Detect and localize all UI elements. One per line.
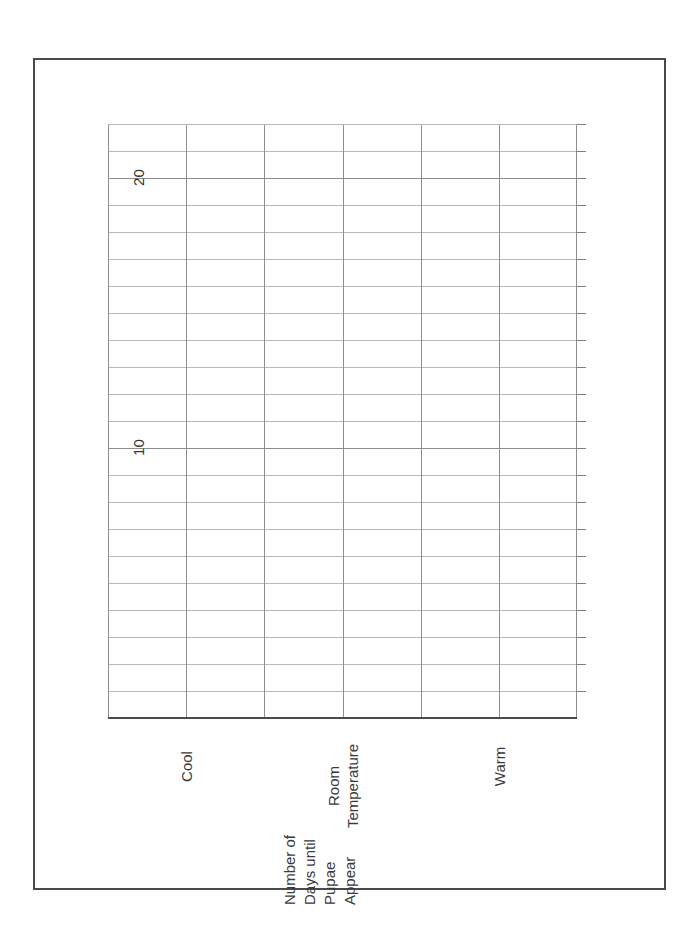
axis-tick <box>577 259 586 260</box>
axis-tick <box>577 583 586 584</box>
category-label-cool: Cool <box>177 707 196 827</box>
axis-tick <box>577 124 586 125</box>
y-tick-label-20: 20 <box>130 169 147 186</box>
axis-tick <box>577 556 586 557</box>
axis-tick <box>577 421 586 422</box>
axis-tick <box>577 610 586 611</box>
axis-tick <box>577 232 586 233</box>
axis-tick <box>577 178 586 179</box>
axis-tick <box>577 502 586 503</box>
chart-plot-area <box>108 125 577 719</box>
category-separator <box>343 125 344 719</box>
category-separator <box>499 125 500 719</box>
worksheet-page: 20 10 Cool Room Temperature Warm Number … <box>0 0 699 952</box>
axis-tick <box>577 475 586 476</box>
category-label-warm: Warm <box>489 707 508 827</box>
y-axis-title-line-2: Days until <box>300 715 320 905</box>
category-separator <box>264 125 265 719</box>
axis-tick <box>577 340 586 341</box>
axis-tick <box>577 691 586 692</box>
grid-canvas <box>108 125 577 719</box>
category-separator <box>421 125 422 719</box>
axis-tick <box>577 313 586 314</box>
y-axis-title-line-1: Number of <box>280 715 300 905</box>
category-separator <box>186 125 187 719</box>
axis-tick <box>577 448 586 449</box>
axis-tick <box>577 367 586 368</box>
axis-tick <box>577 529 586 530</box>
axis-tick <box>577 151 586 152</box>
y-tick-label-10: 10 <box>130 439 147 456</box>
axis-tick <box>577 286 586 287</box>
y-axis-title-line-3: Pupae <box>320 715 340 905</box>
axis-tick <box>577 394 586 395</box>
axis-tick <box>577 664 586 665</box>
axis-tick <box>577 205 586 206</box>
axis-tick <box>577 637 586 638</box>
y-axis-title: Number of Days until Pupae Appear <box>280 715 360 905</box>
category-separator <box>576 125 577 719</box>
y-axis-title-line-4: Appear <box>340 715 360 905</box>
category-separator <box>108 125 109 719</box>
